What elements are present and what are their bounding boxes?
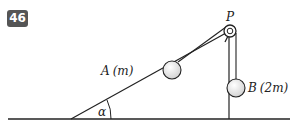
ball-a	[163, 61, 181, 79]
pulley-label: P	[225, 10, 235, 24]
angle-label: α	[98, 105, 106, 119]
pulley-icon	[224, 25, 236, 37]
rope-a	[178, 27, 226, 62]
incline-surface	[71, 33, 226, 119]
angle-arc	[107, 100, 111, 119]
mass-a-label: A(m)	[100, 64, 134, 78]
incline-pulley-diagram: P A(m) B(2m) α	[0, 0, 295, 128]
ball-b	[227, 79, 245, 97]
mass-b-label: B(2m)	[247, 81, 289, 95]
